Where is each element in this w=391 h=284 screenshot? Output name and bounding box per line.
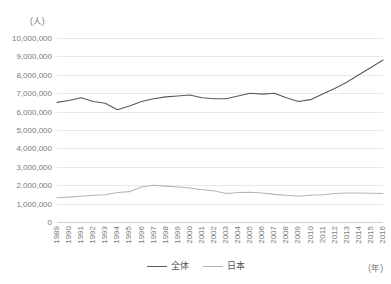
series-line-全体 xyxy=(57,60,383,110)
series-line-日本 xyxy=(57,185,383,198)
legend-swatch-icon xyxy=(203,266,223,267)
x-axis-tick-label: 1999 xyxy=(174,226,182,244)
y-axis-tick-label: 1,000,000 xyxy=(0,199,52,208)
x-axis-tick-label: 2007 xyxy=(270,226,278,244)
x-axis-tick-label: 2004 xyxy=(234,226,242,244)
series-lines xyxy=(57,38,383,222)
x-axis-tick-label: 2014 xyxy=(355,226,363,244)
x-axis-tick-label: 1997 xyxy=(150,226,158,244)
y-axis-tick-label: 7,000,000 xyxy=(0,89,52,98)
y-axis-tick-label: 5,000,000 xyxy=(0,126,52,135)
x-axis-tick-label: 1989 xyxy=(53,226,61,244)
legend-label: 全体 xyxy=(171,262,189,271)
x-axis-tick-label: 1993 xyxy=(101,226,109,244)
legend-swatch-icon xyxy=(147,266,167,267)
x-axis-tick-label: 2016 xyxy=(379,226,387,244)
x-axis-tick-label: 1998 xyxy=(162,226,170,244)
legend-item-日本[interactable]: 日本 xyxy=(203,262,245,271)
x-axis-tick-label: 2013 xyxy=(343,226,351,244)
legend-item-全体[interactable]: 全体 xyxy=(147,262,189,271)
x-axis-tick-label: 2012 xyxy=(331,226,339,244)
y-axis-tick-label: 9,000,000 xyxy=(0,52,52,61)
plot-area xyxy=(57,38,383,222)
x-axis-tick-label: 2001 xyxy=(198,226,206,244)
x-axis-tick-label: 2011 xyxy=(319,226,327,243)
y-axis-tick-label: 4,000,000 xyxy=(0,144,52,153)
y-axis-tick-label: 8,000,000 xyxy=(0,70,52,79)
x-axis-tick-label: 1992 xyxy=(89,226,97,244)
x-axis-tick-label: 1991 xyxy=(77,226,85,244)
gridline xyxy=(57,222,383,223)
x-axis-tick-label: 2010 xyxy=(307,226,315,244)
y-axis-tick-label: 10,000,000 xyxy=(0,34,52,43)
x-axis-tick-label: 2005 xyxy=(246,226,254,244)
x-axis-tick-label: 1995 xyxy=(125,226,133,244)
y-axis-tick-label: 0 xyxy=(0,218,52,227)
x-axis-tick-label: 2003 xyxy=(222,226,230,244)
legend-label: 日本 xyxy=(227,262,245,271)
x-axis-tick-label: 2000 xyxy=(186,226,194,244)
x-axis-tick-labels: 1989199019911992199319941995199619971998… xyxy=(57,226,383,260)
x-axis-tick-label: 2002 xyxy=(210,226,218,244)
chart-container: (人) (年) 01,000,0002,000,0003,000,0004,00… xyxy=(0,0,391,284)
x-axis-tick-label: 1994 xyxy=(113,226,121,244)
x-axis-tick-label: 1996 xyxy=(138,226,146,244)
chart-legend: 全体日本 xyxy=(0,262,391,271)
y-axis-tick-label: 2,000,000 xyxy=(0,181,52,190)
x-axis-tick-label: 2009 xyxy=(294,226,302,244)
x-axis-tick-label: 2006 xyxy=(258,226,266,244)
x-axis-tick-label: 1990 xyxy=(65,226,73,244)
y-axis-tick-label: 3,000,000 xyxy=(0,162,52,171)
y-axis-unit-label: (人) xyxy=(30,14,45,26)
x-axis-tick-label: 2015 xyxy=(367,226,375,244)
y-axis-tick-label: 6,000,000 xyxy=(0,107,52,116)
x-axis-tick-label: 2008 xyxy=(282,226,290,244)
